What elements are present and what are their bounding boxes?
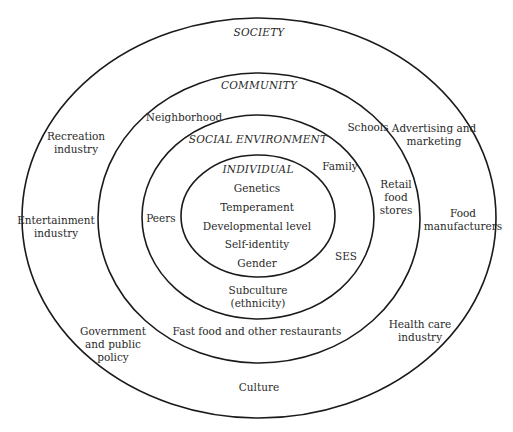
health-care-industry-label: Health care industry xyxy=(389,318,452,344)
individual-title: INDIVIDUAL xyxy=(222,163,293,176)
culture-label: Culture xyxy=(239,381,279,394)
food-manufacturers-label: Food manufacturers xyxy=(424,207,502,233)
recreation-industry-label: Recreation industry xyxy=(47,130,105,156)
entertainment-industry-label: Entertainment industry xyxy=(17,214,95,240)
individual-item-self-identity: Self-identity xyxy=(225,238,290,251)
family-label: Family xyxy=(322,160,357,173)
peers-label: Peers xyxy=(146,212,175,225)
subculture-ethnicity-label: Subculture (ethnicity) xyxy=(229,284,288,310)
ses-label: SES xyxy=(335,250,357,263)
schools-label: Schools xyxy=(347,121,388,134)
society-title: SOCIETY xyxy=(234,26,285,39)
neighborhood-label: Neighborhood xyxy=(146,111,222,124)
advertising-marketing-label: Advertising and marketing xyxy=(392,122,476,148)
individual-item-developmental-level: Developmental level xyxy=(203,220,311,233)
individual-item-gender: Gender xyxy=(237,257,276,270)
government-policy-label: Government and public policy xyxy=(80,325,146,364)
community-title: COMMUNITY xyxy=(221,79,297,92)
social-environment-title: SOCIAL ENVIRONMENT xyxy=(189,133,327,146)
fast-food-restaurants-label: Fast food and other restaurants xyxy=(173,325,342,338)
retail-food-stores-label: Retail food stores xyxy=(380,178,413,217)
individual-item-temperament: Temperament xyxy=(220,201,294,214)
individual-item-genetics: Genetics xyxy=(234,182,280,195)
